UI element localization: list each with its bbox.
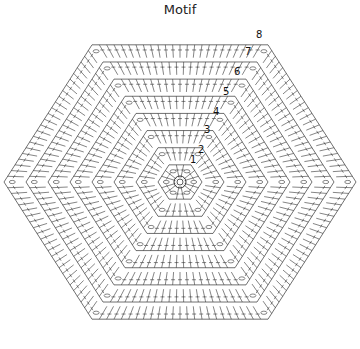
round-label-5: 5: [223, 86, 229, 97]
round-label-7: 7: [245, 46, 251, 57]
round-1-outline: [158, 165, 202, 199]
magic-ring: [174, 176, 186, 188]
round-label-1: 1: [190, 154, 196, 165]
round-label-8: 8: [256, 29, 262, 40]
round-label-6: 6: [234, 66, 240, 77]
crochet-motif-chart: 12345678: [0, 0, 360, 349]
round-4-outline: [92, 113, 268, 250]
round-label-2: 2: [198, 144, 204, 155]
round-label-3: 3: [204, 124, 210, 135]
round-3-outline: [114, 131, 246, 234]
round-label-4: 4: [213, 106, 219, 117]
